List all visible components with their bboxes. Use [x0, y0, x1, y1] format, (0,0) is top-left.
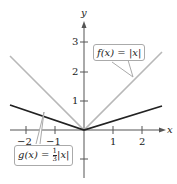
- y-tick-label: 1: [72, 96, 78, 106]
- g-series-line: [10, 105, 162, 130]
- f-legend-callout: f(x) = |x|: [93, 44, 145, 61]
- f-series-line: [10, 52, 162, 130]
- g-label-suffix: |x|: [57, 149, 69, 160]
- g-legend-callout: g(x) = 13|x|: [14, 145, 73, 166]
- x-tick-label: 1: [110, 137, 116, 147]
- g-label-prefix: g(x) =: [18, 149, 53, 160]
- y-axis-arrow-icon: [82, 21, 87, 28]
- x-axis-label: x: [167, 125, 173, 135]
- y-tick-label: 3: [72, 37, 78, 47]
- g-callout-pointer: [36, 112, 44, 144]
- y-tick-label: 2: [72, 67, 78, 77]
- f-label: f(x) = |x|: [97, 47, 141, 58]
- x-tick-label: 2: [139, 137, 145, 147]
- x-axis-arrow-icon: [159, 128, 166, 133]
- y-axis-label: y: [81, 8, 87, 18]
- f-callout-pointer: [112, 60, 133, 77]
